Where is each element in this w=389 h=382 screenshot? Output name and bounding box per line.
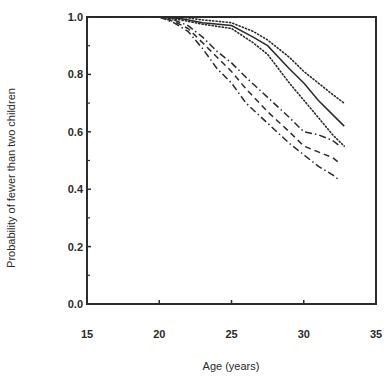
series-lines <box>87 17 344 181</box>
series-line-5 <box>87 17 340 163</box>
x-tick-label: 20 <box>153 328 165 340</box>
axis-ticks: 15202530350.00.20.40.60.81.0 <box>68 11 382 340</box>
y-tick-label: 1.0 <box>68 11 83 23</box>
y-tick-label: 0.8 <box>68 68 83 80</box>
plot-border <box>87 17 376 304</box>
y-tick-label: 0.2 <box>68 241 83 253</box>
plot-area <box>87 17 376 304</box>
x-tick-label: 25 <box>225 328 237 340</box>
series-line-2 <box>87 17 344 126</box>
x-tick-label: 30 <box>298 328 310 340</box>
x-tick-label: 35 <box>370 328 382 340</box>
x-axis-title: Age (years) <box>203 360 260 372</box>
y-tick-label: 0.0 <box>68 298 83 310</box>
y-axis-title: Probability of fewer than two children <box>5 88 17 268</box>
y-tick-label: 0.6 <box>68 126 83 138</box>
y-tick-label: 0.4 <box>68 183 84 195</box>
x-tick-label: 15 <box>81 328 93 340</box>
survival-chart: 15202530350.00.20.40.60.81.0 Age (years)… <box>0 0 389 382</box>
series-line-3 <box>87 17 344 146</box>
series-line-1 <box>87 17 344 103</box>
